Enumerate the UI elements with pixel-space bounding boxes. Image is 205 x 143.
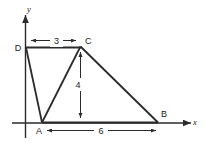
dimension-ab-label: 6: [98, 126, 103, 136]
dimension-c-height: 4: [74, 52, 87, 118]
vertex-labels: D C A B: [15, 36, 167, 136]
edge-a-d: [26, 48, 42, 123]
vertex-label-c: C: [85, 36, 92, 46]
geometry-figure-canvas: x y 3 4 6 D: [0, 0, 205, 143]
x-axis-label: x: [192, 117, 197, 127]
dimension-c-label: 4: [75, 80, 80, 90]
dimension-dc-label: 3: [54, 36, 59, 46]
y-axis-label: y: [26, 4, 31, 14]
edge-c-b: [81, 47, 159, 123]
vertex-label-a: A: [36, 126, 42, 136]
geometry-diagram: x y 3 4 6 D: [0, 0, 205, 143]
vertex-label-b: B: [161, 109, 167, 119]
dimension-dc-width: 3: [31, 34, 76, 47]
dimension-ab-length: 6: [47, 124, 156, 137]
vertex-label-d: D: [15, 43, 22, 53]
polygon-edges: [26, 47, 158, 123]
